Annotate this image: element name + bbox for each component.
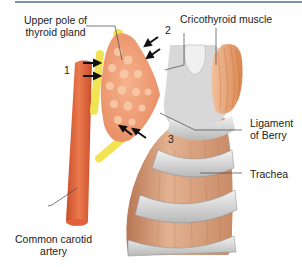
label-line: of Berry bbox=[250, 129, 293, 141]
label-line: thyroid gland bbox=[24, 26, 87, 38]
label-line: Upper pole of bbox=[24, 14, 87, 26]
label-upper-pole-thyroid: Upper pole of thyroid gland bbox=[24, 14, 87, 38]
marker-1: 1 bbox=[64, 64, 70, 76]
trachea bbox=[126, 118, 232, 255]
label-line: Common carotid bbox=[15, 233, 92, 245]
label-trachea: Trachea bbox=[250, 168, 288, 180]
label-cricothyroid-muscle: Cricothyroid muscle bbox=[180, 13, 272, 25]
thyroid-upper-pole bbox=[101, 33, 160, 142]
label-ligament-of-berry: Ligament of Berry bbox=[250, 117, 293, 141]
label-line: artery bbox=[15, 245, 92, 257]
label-common-carotid-artery: Common carotid artery bbox=[15, 233, 92, 257]
marker-2: 2 bbox=[165, 24, 171, 36]
marker-3: 3 bbox=[168, 133, 174, 145]
common-carotid-artery bbox=[66, 60, 92, 226]
label-line: Ligament bbox=[250, 117, 293, 129]
